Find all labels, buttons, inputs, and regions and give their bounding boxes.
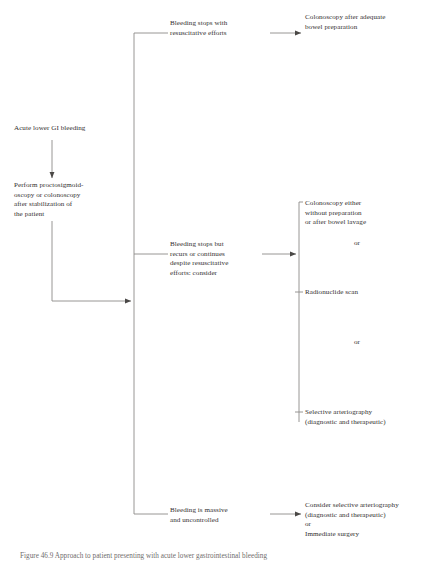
- node-bleeding-massive-uncontrolled: Bleeding is massive and uncontrolled: [170, 506, 270, 525]
- node-acute-lower-gi-bleeding: Acute lower GI bleeding: [14, 124, 134, 134]
- node-perform-proctosigmoidoscopy: Perform proctosigmoid- oscopy or colonos…: [14, 181, 124, 219]
- node-colonoscopy-without-prep: Colonoscopy either without preparation o…: [305, 199, 417, 228]
- connector-label-or-2: or: [305, 338, 409, 348]
- node-bleeding-recurs-or-continues: Bleeding stops but recurs or continues d…: [170, 240, 270, 278]
- node-bleeding-stops-with-resuscitation: Bleeding stops with resuscitative effort…: [170, 19, 270, 38]
- node-selective-arteriography: Selective arteriography (diagnostic and …: [305, 408, 417, 427]
- figure-caption: Figure 46.9 Approach to patient presenti…: [20, 552, 415, 561]
- flowchart-connectors: [0, 0, 421, 561]
- node-radionuclide-scan: Radionuclide scan: [305, 288, 417, 298]
- node-colonoscopy-after-adequate-prep: Colonoscopy after adequate bowel prepara…: [305, 13, 417, 32]
- figure-canvas: Acute lower GI bleeding Perform proctosi…: [0, 0, 421, 561]
- connector-label-or-1: or: [305, 239, 409, 249]
- node-consider-arteriography-or-surgery: Consider selective arteriography (diagno…: [305, 501, 421, 539]
- connector-perform-to-bracket: [52, 221, 131, 301]
